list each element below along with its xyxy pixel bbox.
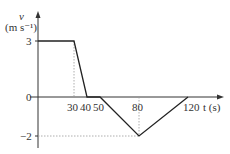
- y-tick-3: 3: [26, 35, 32, 47]
- velocity-line: [38, 41, 188, 136]
- y-axis-unit: (m s⁻¹): [5, 21, 37, 34]
- x-tick-80: 80: [132, 101, 144, 113]
- y-tick-minus2: −2: [20, 130, 32, 142]
- x-axis-name: t (s): [203, 101, 221, 114]
- x-tick-30: 30: [67, 101, 79, 113]
- x-tick-40: 40: [80, 101, 92, 113]
- x-tick-120: 120: [183, 101, 200, 113]
- x-axis-arrow-icon: [217, 95, 224, 100]
- velocity-time-graph: v (m s⁻¹) 3 0 −2 30 40 50 80 120 t (s): [0, 0, 230, 154]
- x-tick-50: 50: [93, 101, 105, 113]
- y-axis-arrow-icon: [36, 11, 41, 18]
- y-tick-0: 0: [26, 91, 32, 103]
